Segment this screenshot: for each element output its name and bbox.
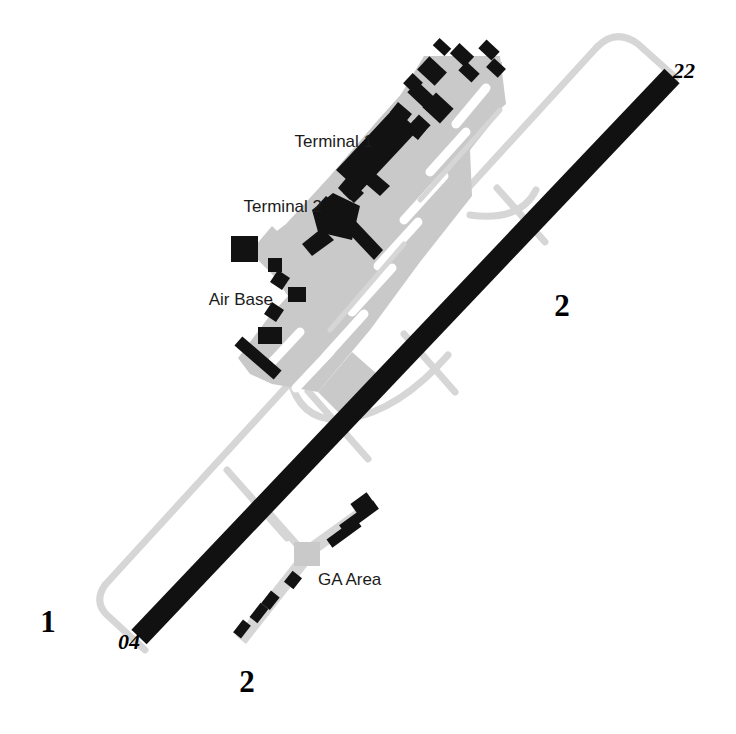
air-base-hangar — [258, 327, 282, 344]
air-base-hangar-large — [231, 236, 258, 262]
airport-diagram: Terminal 1 Terminal 2 Air Base GA Area 0… — [0, 0, 736, 734]
airport-map-svg: Terminal 1 Terminal 2 Air Base GA Area 0… — [0, 0, 736, 734]
label-terminal-1: Terminal 1 — [295, 132, 373, 151]
label-ga-area: GA Area — [318, 570, 382, 589]
air-base-building — [288, 287, 306, 302]
north-ramp-building — [433, 38, 452, 56]
air-base-building — [268, 258, 282, 272]
label-region-south: 2 — [239, 664, 255, 699]
label-air-base: Air Base — [209, 290, 273, 309]
label-runway-threshold-22: 22 — [672, 58, 695, 83]
label-runway-threshold-04: 04 — [118, 629, 140, 654]
label-region-west: 1 — [40, 604, 56, 639]
label-terminal-2: Terminal 2 — [244, 197, 322, 216]
label-region-east: 2 — [554, 288, 570, 323]
ga-apron-node — [294, 542, 320, 566]
